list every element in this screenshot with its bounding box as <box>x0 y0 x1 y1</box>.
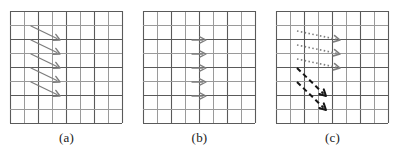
grid-lines <box>276 11 389 124</box>
arrow-shaft <box>297 68 324 94</box>
grid-lines <box>10 11 123 124</box>
figure-panel-row: (a) (b) (c) <box>0 0 401 159</box>
panel-c-canvas <box>274 9 392 127</box>
arrow-shaft <box>297 45 337 53</box>
figure-panel-b: (b) <box>133 0 266 145</box>
arrow-shaft <box>297 59 337 67</box>
panel-b-caption: (b) <box>192 131 208 145</box>
grid-lines <box>143 11 256 124</box>
arrow-group-diagonal-gray-solid <box>31 26 60 96</box>
arrow-shaft <box>31 54 57 67</box>
arrow-shaft <box>31 68 57 81</box>
arrow-shaft <box>31 82 57 95</box>
arrow-shaft <box>31 26 57 39</box>
arrow-shaft <box>31 40 57 53</box>
panel-a-caption: (a) <box>59 131 74 145</box>
arrow-shaft <box>297 31 337 39</box>
panel-c-caption: (c) <box>325 131 340 145</box>
figure-panel-c: (c) <box>266 0 399 145</box>
figure-panel-a: (a) <box>0 0 133 145</box>
arrow-group-steep-black-dashed <box>297 68 326 110</box>
panel-a-canvas <box>8 9 126 127</box>
panel-b-canvas <box>141 9 259 127</box>
